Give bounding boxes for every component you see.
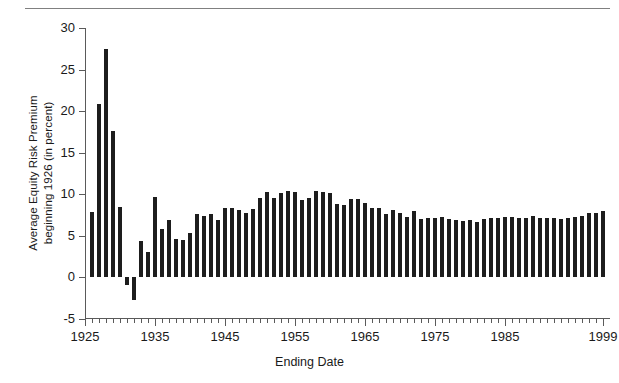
x-tick-1963 [351, 319, 352, 323]
bar-1969 [391, 210, 395, 277]
bar-1992 [552, 218, 556, 277]
bar-1960 [328, 193, 332, 277]
x-tick-1998 [596, 319, 597, 323]
bar-1937 [167, 220, 171, 277]
x-tick-1981 [477, 319, 478, 323]
x-tick-1948 [246, 319, 247, 323]
x-tick-1976 [442, 319, 443, 323]
x-tick-1954 [288, 319, 289, 323]
x-tick-1983 [491, 319, 492, 323]
x-tick-label-1965: 1965 [351, 329, 380, 344]
bar-1981 [475, 222, 479, 278]
x-tick-1929 [113, 319, 114, 323]
x-tick-1974 [428, 319, 429, 323]
y-tick-label: 5 [68, 228, 75, 243]
bar-1968 [384, 214, 388, 277]
x-tick-1964 [358, 319, 359, 323]
x-tick-1925 [85, 319, 86, 326]
bar-1940 [188, 233, 192, 278]
bar-1951 [265, 192, 269, 278]
y-tick-label: 15 [61, 145, 75, 160]
y-axis-label: Average Equity Risk Premium beginning 19… [26, 48, 56, 298]
bar-1938 [174, 239, 178, 277]
x-tick-1992 [554, 319, 555, 323]
x-tick-label-1975: 1975 [421, 329, 450, 344]
x-tick-1960 [330, 319, 331, 323]
x-tick-1971 [407, 319, 408, 323]
bar-1947 [237, 210, 241, 277]
bar-1991 [545, 218, 549, 278]
x-tick-1953 [281, 319, 282, 323]
x-tick-1946 [232, 319, 233, 323]
y-tick-label: 25 [61, 62, 75, 77]
bar-1996 [580, 216, 584, 278]
bar-1983 [489, 218, 493, 278]
bar-1978 [454, 220, 458, 277]
bar-1974 [426, 218, 430, 277]
bar-1997 [587, 213, 591, 277]
bar-1956 [300, 200, 304, 277]
x-tick-1943 [211, 319, 212, 323]
bar-1948 [244, 213, 248, 277]
x-tick-label-1999: 1999 [589, 329, 618, 344]
x-tick-1978 [456, 319, 457, 323]
x-tick-1936 [162, 319, 163, 323]
x-tick-label-1985: 1985 [491, 329, 520, 344]
x-tick-label-1935: 1935 [141, 329, 170, 344]
x-tick-1950 [260, 319, 261, 323]
bar-1994 [566, 218, 570, 277]
bar-1989 [531, 216, 535, 278]
x-tick-1934 [148, 319, 149, 323]
bar-1954 [286, 191, 290, 277]
bar-1970 [398, 213, 402, 278]
x-tick-1994 [568, 319, 569, 323]
x-tick-1949 [253, 319, 254, 323]
bar-1934 [146, 252, 150, 278]
x-tick-1991 [547, 319, 548, 323]
x-tick-1993 [561, 319, 562, 323]
caption-rule [25, 8, 610, 9]
x-tick-1931 [127, 319, 128, 323]
bar-1961 [335, 204, 339, 277]
bar-1967 [377, 208, 381, 278]
bar-1928 [104, 49, 108, 278]
x-tick-1958 [316, 319, 317, 323]
x-tick-1941 [197, 319, 198, 323]
bar-1977 [447, 219, 451, 277]
x-tick-1973 [421, 319, 422, 323]
x-tick-1982 [484, 319, 485, 323]
bar-1955 [293, 192, 297, 278]
y-tick-20: 20 [79, 111, 85, 112]
bar-1987 [517, 218, 521, 277]
bar-1984 [496, 218, 500, 277]
y-tick-10: 10 [79, 194, 85, 195]
x-tick-1977 [449, 319, 450, 323]
bar-1929 [111, 131, 115, 277]
bar-1942 [202, 216, 206, 278]
y-axis-spine [85, 28, 86, 319]
y-tick-0: 0 [79, 277, 85, 278]
bar-1971 [405, 217, 409, 278]
bar-1995 [573, 217, 577, 278]
bar-1941 [195, 214, 199, 277]
x-tick-1999 [603, 319, 604, 326]
x-tick-1930 [120, 319, 121, 323]
y-tick-5: 5 [79, 236, 85, 237]
y-tick-25: 25 [79, 70, 85, 71]
bar-1962 [342, 205, 346, 277]
bar-1963 [349, 199, 353, 277]
x-tick-1985 [505, 319, 506, 326]
x-tick-1979 [463, 319, 464, 323]
x-tick-1937 [169, 319, 170, 323]
x-tick-1933 [141, 319, 142, 323]
x-tick-1927 [99, 319, 100, 323]
bar-1926 [90, 212, 94, 278]
x-tick-1940 [190, 319, 191, 323]
x-tick-1961 [337, 319, 338, 323]
bar-1935 [153, 197, 157, 278]
x-tick-1987 [519, 319, 520, 323]
bar-1953 [279, 193, 283, 277]
bar-1946 [230, 208, 234, 277]
bar-1936 [160, 229, 164, 277]
bar-1950 [258, 198, 262, 277]
